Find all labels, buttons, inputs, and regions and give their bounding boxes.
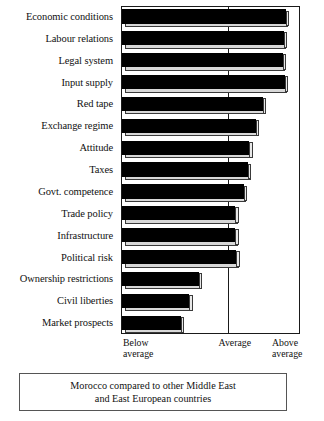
- bar-highlight: [125, 89, 288, 92]
- axis-tick-above-average: Above average: [272, 337, 302, 360]
- bar-side-cap: [249, 142, 252, 158]
- bar-highlight: [125, 24, 289, 27]
- category-axis-labels: Economic conditionsLabour relationsLegal…: [0, 6, 117, 334]
- bar-row: [122, 182, 301, 204]
- bar: [122, 141, 249, 155]
- bar-row: [122, 269, 301, 291]
- bar-highlight: [125, 199, 247, 202]
- bar-side-cap: [286, 11, 289, 27]
- bar-highlight: [125, 133, 259, 136]
- category-label: Political risk: [61, 247, 113, 269]
- caption-text: Morocco compared to other Middle East an…: [70, 379, 236, 405]
- bar-side-cap: [235, 229, 238, 245]
- bar: [122, 184, 244, 198]
- bar: [122, 294, 189, 308]
- bar-highlight: [125, 67, 286, 70]
- bar: [122, 316, 181, 330]
- bar-highlight: [125, 111, 266, 114]
- caption-box: Morocco compared to other Middle East an…: [19, 373, 287, 411]
- category-label: Govt. competence: [38, 181, 113, 203]
- bar-row: [122, 248, 301, 270]
- bar: [122, 75, 285, 89]
- axis-tick-average: Average: [193, 337, 251, 348]
- bar-row: [122, 160, 301, 182]
- category-label: Exchange regime: [41, 115, 113, 137]
- category-label: Ownership restrictions: [20, 268, 113, 290]
- bar-highlight: [125, 155, 252, 158]
- bar-row: [122, 226, 301, 248]
- bar-side-cap: [244, 186, 247, 202]
- category-label: Trade policy: [61, 203, 113, 225]
- bar: [122, 9, 286, 23]
- bar-row: [122, 291, 301, 313]
- bar-highlight: [125, 308, 192, 311]
- bar-highlight: [125, 45, 287, 48]
- bar-row: [122, 204, 301, 226]
- value-axis-labels: Below average Average Above average: [0, 336, 324, 364]
- bar-highlight: [125, 242, 238, 245]
- category-label: Market prospects: [42, 312, 113, 334]
- category-label: Input supply: [61, 72, 113, 94]
- category-label: Red tape: [77, 93, 113, 115]
- chart-figure: Economic conditionsLabour relationsLegal…: [0, 0, 324, 421]
- bar-row: [122, 73, 301, 95]
- bar-highlight: [125, 177, 251, 180]
- bar-side-cap: [199, 273, 202, 289]
- bar-side-cap: [181, 317, 184, 333]
- plot-area: [121, 6, 300, 334]
- category-label: Civil liberties: [57, 290, 113, 312]
- bar-highlight: [125, 286, 202, 289]
- bar-side-cap: [284, 32, 287, 48]
- bar: [122, 53, 283, 67]
- category-label: Taxes: [89, 159, 113, 181]
- category-label: Infrastructure: [57, 225, 113, 247]
- bar-highlight: [125, 220, 238, 223]
- bar: [122, 97, 263, 111]
- bar-row: [122, 313, 301, 335]
- category-label: Labour relations: [45, 28, 113, 50]
- bar-side-cap: [235, 207, 238, 223]
- bar-side-cap: [285, 76, 288, 92]
- bar: [122, 119, 256, 133]
- category-label: Attitude: [79, 137, 113, 159]
- bar-side-cap: [236, 251, 239, 267]
- bar: [122, 250, 236, 264]
- bar: [122, 162, 248, 176]
- bar-row: [122, 94, 301, 116]
- bar: [122, 206, 235, 220]
- bar-row: [122, 138, 301, 160]
- bar-row: [122, 29, 301, 51]
- bar-side-cap: [263, 98, 266, 114]
- axis-tick-below-average: Below average: [123, 337, 153, 360]
- bar: [122, 272, 199, 286]
- bar-highlight: [125, 264, 239, 267]
- bar: [122, 31, 284, 45]
- bar-side-cap: [248, 164, 251, 180]
- category-label: Legal system: [59, 50, 114, 72]
- bar-row: [122, 7, 301, 29]
- bar-side-cap: [256, 120, 259, 136]
- category-label: Economic conditions: [26, 6, 113, 28]
- bar-side-cap: [283, 54, 286, 70]
- bar-highlight: [125, 330, 184, 333]
- bar-row: [122, 116, 301, 138]
- bar-side-cap: [189, 295, 192, 311]
- bar-row: [122, 51, 301, 73]
- bar: [122, 228, 235, 242]
